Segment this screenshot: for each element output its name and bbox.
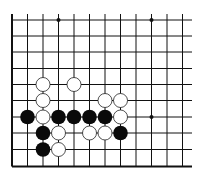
white-stone	[36, 110, 50, 124]
black-stone	[98, 110, 113, 125]
white-stone	[52, 126, 66, 140]
white-stone	[98, 126, 112, 140]
black-stone	[51, 110, 66, 125]
star-point	[57, 18, 61, 22]
black-stone	[67, 110, 82, 125]
black-stone	[20, 110, 35, 125]
white-stone	[98, 94, 112, 108]
white-stone	[67, 78, 81, 92]
star-point	[150, 115, 154, 119]
go-board	[0, 0, 202, 174]
black-stone	[82, 110, 97, 125]
black-stone	[36, 142, 51, 157]
black-stone	[36, 126, 51, 141]
white-stone	[36, 78, 50, 92]
white-stone	[36, 94, 50, 108]
white-stone	[83, 126, 97, 140]
white-stone	[114, 94, 128, 108]
black-stone	[113, 126, 128, 141]
white-stone	[52, 143, 66, 157]
white-stone	[114, 110, 128, 124]
star-point	[150, 18, 154, 22]
